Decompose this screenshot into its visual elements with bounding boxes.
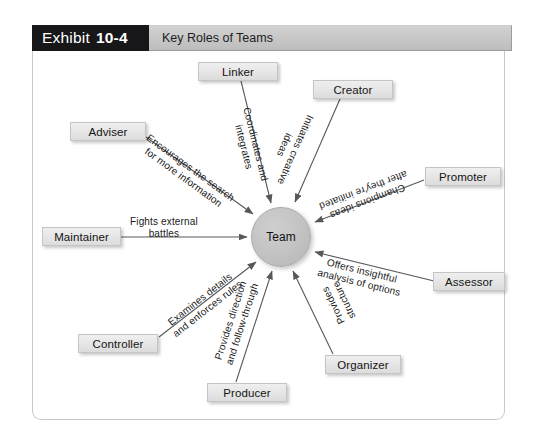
exhibit-screenshot: Exhibit 10-4 Key Roles of Teams <box>0 0 537 445</box>
role-label-organizer: Organizer <box>337 359 388 371</box>
exhibit-number-block: Exhibit 10-4 <box>32 25 149 51</box>
role-label-adviser: Adviser <box>88 126 127 138</box>
role-box-creator[interactable]: Creator <box>313 80 393 99</box>
exhibit-title-bar: Key Roles of Teams <box>149 25 512 51</box>
role-label-linker: Linker <box>222 66 254 78</box>
role-box-controller[interactable]: Controller <box>78 334 158 353</box>
role-box-promoter[interactable]: Promoter <box>425 167 501 186</box>
role-box-producer[interactable]: Producer <box>207 383 287 402</box>
team-center-node[interactable]: Team <box>251 207 311 267</box>
role-label-controller: Controller <box>93 338 144 350</box>
role-label-producer: Producer <box>223 387 270 399</box>
role-label-maintainer: Maintainer <box>54 231 109 243</box>
role-label-promoter: Promoter <box>439 171 487 183</box>
role-label-creator: Creator <box>333 84 372 96</box>
role-box-adviser[interactable]: Adviser <box>70 122 146 141</box>
edge-label-maintainer: Fights external battles <box>130 216 198 240</box>
role-box-linker[interactable]: Linker <box>198 62 278 81</box>
exhibit-number: 10-4 <box>96 29 128 47</box>
exhibit-title: Key Roles of Teams <box>162 31 273 45</box>
exhibit-label: Exhibit <box>42 29 90 47</box>
team-center-label: Team <box>266 230 295 244</box>
role-label-assessor: Assessor <box>445 276 493 288</box>
role-box-maintainer[interactable]: Maintainer <box>42 227 121 246</box>
role-box-organizer[interactable]: Organizer <box>325 355 401 374</box>
exhibit-header: Exhibit 10-4 Key Roles of Teams <box>32 25 512 51</box>
role-box-assessor[interactable]: Assessor <box>433 272 505 291</box>
